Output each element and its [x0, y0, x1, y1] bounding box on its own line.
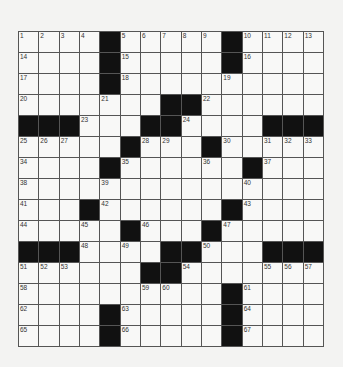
grid-cell[interactable]: [304, 326, 323, 346]
grid-cell[interactable]: [80, 263, 99, 283]
grid-cell[interactable]: 34: [19, 158, 38, 178]
grid-cell[interactable]: 62: [19, 305, 38, 325]
grid-cell[interactable]: [60, 158, 79, 178]
grid-cell[interactable]: 67: [243, 326, 262, 346]
grid-cell[interactable]: [202, 53, 221, 73]
grid-cell[interactable]: [161, 200, 180, 220]
grid-cell[interactable]: 47: [222, 221, 241, 241]
grid-cell[interactable]: [161, 74, 180, 94]
grid-cell[interactable]: [60, 221, 79, 241]
grid-cell[interactable]: 40: [243, 179, 262, 199]
grid-cell[interactable]: [222, 95, 241, 115]
grid-cell[interactable]: [141, 158, 160, 178]
grid-cell[interactable]: [202, 284, 221, 304]
grid-cell[interactable]: 28: [141, 137, 160, 157]
grid-cell[interactable]: 63: [121, 305, 140, 325]
grid-cell[interactable]: [121, 95, 140, 115]
grid-cell[interactable]: 29: [161, 137, 180, 157]
grid-cell[interactable]: [283, 200, 302, 220]
grid-cell[interactable]: [222, 116, 241, 136]
grid-cell[interactable]: [182, 284, 201, 304]
grid-cell[interactable]: [39, 158, 58, 178]
grid-cell[interactable]: [182, 305, 201, 325]
grid-cell[interactable]: 23: [80, 116, 99, 136]
grid-cell[interactable]: [80, 53, 99, 73]
grid-cell[interactable]: [263, 284, 282, 304]
grid-cell[interactable]: 7: [161, 32, 180, 52]
grid-cell[interactable]: [80, 305, 99, 325]
grid-cell[interactable]: 64: [243, 305, 262, 325]
grid-cell[interactable]: 51: [19, 263, 38, 283]
grid-cell[interactable]: [60, 53, 79, 73]
grid-cell[interactable]: [100, 137, 119, 157]
grid-cell[interactable]: [39, 95, 58, 115]
grid-cell[interactable]: 12: [283, 32, 302, 52]
grid-cell[interactable]: [100, 221, 119, 241]
grid-cell[interactable]: [202, 179, 221, 199]
grid-cell[interactable]: [243, 263, 262, 283]
grid-cell[interactable]: 54: [182, 263, 201, 283]
grid-cell[interactable]: 61: [243, 284, 262, 304]
grid-cell[interactable]: [202, 200, 221, 220]
grid-cell[interactable]: 44: [19, 221, 38, 241]
grid-cell[interactable]: [222, 263, 241, 283]
grid-cell[interactable]: [39, 53, 58, 73]
grid-cell[interactable]: 21: [100, 95, 119, 115]
grid-cell[interactable]: [182, 200, 201, 220]
grid-cell[interactable]: [121, 200, 140, 220]
grid-cell[interactable]: 31: [263, 137, 282, 157]
grid-cell[interactable]: [243, 116, 262, 136]
grid-cell[interactable]: 19: [222, 74, 241, 94]
grid-cell[interactable]: 18: [121, 74, 140, 94]
grid-cell[interactable]: [182, 74, 201, 94]
grid-cell[interactable]: [80, 74, 99, 94]
grid-cell[interactable]: 5: [121, 32, 140, 52]
grid-cell[interactable]: [263, 53, 282, 73]
grid-cell[interactable]: [202, 74, 221, 94]
grid-cell[interactable]: 35: [121, 158, 140, 178]
grid-cell[interactable]: 57: [304, 263, 323, 283]
grid-cell[interactable]: [100, 284, 119, 304]
grid-cell[interactable]: [263, 179, 282, 199]
grid-cell[interactable]: [304, 221, 323, 241]
grid-cell[interactable]: [161, 158, 180, 178]
grid-cell[interactable]: [304, 95, 323, 115]
grid-cell[interactable]: 52: [39, 263, 58, 283]
grid-cell[interactable]: 56: [283, 263, 302, 283]
grid-cell[interactable]: [283, 221, 302, 241]
grid-cell[interactable]: [161, 305, 180, 325]
grid-cell[interactable]: 55: [263, 263, 282, 283]
grid-cell[interactable]: 36: [202, 158, 221, 178]
grid-cell[interactable]: [182, 221, 201, 241]
grid-cell[interactable]: [243, 95, 262, 115]
grid-cell[interactable]: 58: [19, 284, 38, 304]
grid-cell[interactable]: [121, 284, 140, 304]
grid-cell[interactable]: 49: [121, 242, 140, 262]
grid-cell[interactable]: [39, 74, 58, 94]
grid-cell[interactable]: 10: [243, 32, 262, 52]
grid-cell[interactable]: 26: [39, 137, 58, 157]
grid-cell[interactable]: [39, 200, 58, 220]
grid-cell[interactable]: [39, 326, 58, 346]
grid-cell[interactable]: 38: [19, 179, 38, 199]
grid-cell[interactable]: [243, 242, 262, 262]
grid-cell[interactable]: [222, 242, 241, 262]
grid-cell[interactable]: [141, 74, 160, 94]
grid-cell[interactable]: [263, 305, 282, 325]
grid-cell[interactable]: [141, 95, 160, 115]
grid-cell[interactable]: [100, 116, 119, 136]
grid-cell[interactable]: [39, 221, 58, 241]
grid-cell[interactable]: 60: [161, 284, 180, 304]
grid-cell[interactable]: [182, 326, 201, 346]
grid-cell[interactable]: 59: [141, 284, 160, 304]
grid-cell[interactable]: [80, 95, 99, 115]
grid-cell[interactable]: [283, 326, 302, 346]
grid-cell[interactable]: 42: [100, 200, 119, 220]
grid-cell[interactable]: [182, 137, 201, 157]
grid-cell[interactable]: [80, 137, 99, 157]
grid-cell[interactable]: 16: [243, 53, 262, 73]
grid-cell[interactable]: [263, 200, 282, 220]
grid-cell[interactable]: [161, 221, 180, 241]
grid-cell[interactable]: 9: [202, 32, 221, 52]
grid-cell[interactable]: [222, 158, 241, 178]
